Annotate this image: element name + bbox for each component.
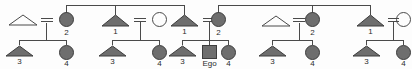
family-2-mother-circle[interactable] bbox=[152, 12, 167, 27]
family-2-child-2-label: 4 bbox=[152, 59, 167, 68]
family-4-descent-line bbox=[299, 23, 300, 40]
family-2-descent-line bbox=[140, 22, 141, 40]
family-5-descent-line bbox=[393, 22, 394, 40]
family-4-union-line bbox=[293, 18, 305, 22]
family-3-mother-circle[interactable] bbox=[211, 12, 226, 27]
family-5-sibship-bar bbox=[366, 40, 404, 41]
family-5-father-triangle[interactable] bbox=[356, 14, 385, 27]
family-2-child-1-label: 3 bbox=[98, 57, 127, 66]
top-sibship-bar-right bbox=[218, 5, 370, 6]
family-4-sibship-bar bbox=[272, 40, 312, 41]
family-5-child-2-circle[interactable] bbox=[396, 45, 411, 60]
family-2-child-2-circle[interactable] bbox=[152, 45, 167, 60]
family-4-father-triangle[interactable] bbox=[261, 15, 291, 27]
family-1-child-2-circle[interactable] bbox=[59, 45, 74, 60]
family-4-child-1-label: 3 bbox=[258, 57, 287, 66]
family-4-mother-label: 2 bbox=[305, 28, 320, 37]
family-1-mother-label: 2 bbox=[59, 28, 74, 37]
family-2-sibship-bar bbox=[112, 40, 160, 41]
pedigree-diagram: 2 3 4 1 3 4 1 bbox=[0, 0, 412, 69]
family-3-child-1-triangle[interactable] bbox=[168, 45, 197, 57]
family-1-union-line bbox=[41, 18, 53, 22]
family-1-descent-line bbox=[46, 23, 47, 40]
family-1-child-1-label: 3 bbox=[5, 57, 34, 66]
family-1-father-triangle[interactable] bbox=[8, 14, 38, 26]
family-3-child-3-circle[interactable] bbox=[221, 45, 236, 60]
family-5-child-1-label: 3 bbox=[352, 57, 381, 66]
family-5-child-1-triangle[interactable] bbox=[352, 45, 381, 57]
family-4-child-2-label: 4 bbox=[305, 59, 320, 68]
family-3-sibship-bar bbox=[182, 40, 229, 41]
family-5-father-label: 1 bbox=[356, 27, 385, 36]
family-5-mother-circle[interactable] bbox=[396, 12, 411, 27]
top-sibship-bar-left bbox=[66, 5, 184, 6]
family-1-sibship-bar bbox=[19, 40, 67, 41]
family-2-child-1-triangle[interactable] bbox=[98, 45, 127, 57]
family-1-mother-circle[interactable] bbox=[59, 12, 74, 27]
family-3-ego-square[interactable] bbox=[202, 45, 217, 59]
family-1-child-1-triangle[interactable] bbox=[5, 45, 34, 57]
family-3-mother-label: 2 bbox=[211, 28, 226, 37]
family-4-child-1-triangle[interactable] bbox=[258, 45, 287, 57]
family-3-descent-line bbox=[209, 22, 210, 40]
family-2-father-label: 1 bbox=[101, 27, 130, 36]
family-4-child-2-circle[interactable] bbox=[305, 45, 320, 60]
family-5-child-2-label: 4 bbox=[396, 59, 411, 68]
family-1-child-2-label: 4 bbox=[59, 59, 74, 68]
family-4-mother-circle[interactable] bbox=[305, 12, 320, 27]
family-2-father-triangle[interactable] bbox=[101, 14, 130, 27]
family-3-father-label: 1 bbox=[170, 27, 199, 36]
family-3-child-3-label: 4 bbox=[221, 59, 236, 68]
family-3-father-triangle[interactable] bbox=[170, 14, 199, 27]
